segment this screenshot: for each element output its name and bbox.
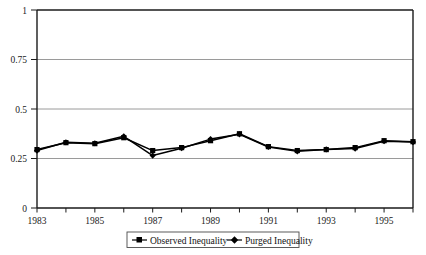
square-marker-icon [150,148,155,153]
y-tick-label-0.25: 0.25 [10,154,27,164]
line-chart-svg: 1 0.75 0.5 0.25 0 1983 1985 1987 1989 19… [0,0,426,255]
legend-label-purged: Purged Inequality [245,236,313,246]
x-tick-label-1995: 1995 [375,216,394,226]
chart-legend: Observed Inequality Purged Inequality [127,232,313,248]
chart-figure: 1 0.75 0.5 0.25 0 1983 1985 1987 1989 19… [0,0,426,255]
x-tick-label-1983: 1983 [28,216,47,226]
x-tick-label-1985: 1985 [85,216,104,226]
y-tick-label-0.5: 0.5 [15,105,27,115]
x-tick-label-1991: 1991 [259,216,278,226]
square-marker-icon [137,237,143,243]
y-tick-label-0: 0 [22,204,27,214]
y-tick-label-1: 1 [22,6,27,16]
y-tick-label-0.75: 0.75 [10,55,27,65]
x-tick-label-1993: 1993 [317,216,336,226]
x-tick-label-1987: 1987 [143,216,162,226]
x-tick-label-1989: 1989 [201,216,220,226]
legend-label-observed: Observed Inequality [150,236,228,246]
